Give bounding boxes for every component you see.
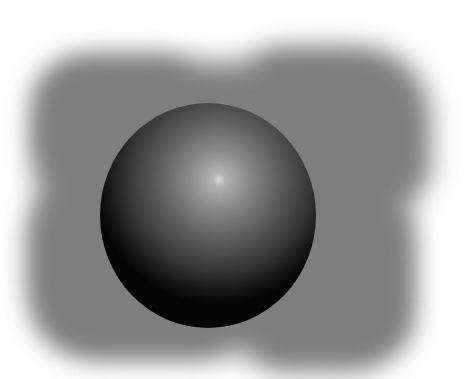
image-canvas <box>0 0 467 379</box>
shaded-sphere <box>100 103 316 328</box>
